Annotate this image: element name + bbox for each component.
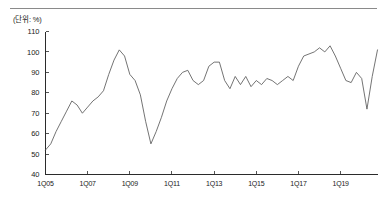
x-tick-label: 1Q09 bbox=[122, 180, 139, 188]
data-series-line bbox=[46, 46, 378, 150]
y-tick-label: 100 bbox=[27, 48, 40, 57]
y-tick-label: 110 bbox=[28, 27, 40, 36]
y-tick-label: 40 bbox=[31, 170, 39, 179]
y-tick-label: 60 bbox=[31, 129, 39, 138]
x-tick-label: 1Q13 bbox=[206, 180, 223, 188]
x-tick-label: 1Q05 bbox=[37, 180, 54, 188]
x-axis-tick-marks bbox=[46, 171, 341, 175]
x-tick-label: 1Q11 bbox=[164, 180, 180, 188]
x-axis-tick-labels: 1Q051Q071Q091Q111Q131Q151Q171Q19 bbox=[37, 180, 349, 188]
y-tick-label: 80 bbox=[31, 88, 39, 97]
chart-figure: (단위: %) 405060708090100110 1Q051Q071Q091… bbox=[0, 0, 387, 200]
x-tick-label: 1Q07 bbox=[79, 180, 96, 188]
x-tick-label: 1Q15 bbox=[248, 180, 265, 188]
y-tick-label: 70 bbox=[31, 109, 39, 118]
y-tick-label: 50 bbox=[31, 150, 39, 159]
y-tick-label: 90 bbox=[31, 68, 39, 77]
y-axis-tick-labels: 405060708090100110 bbox=[27, 27, 40, 179]
x-tick-label: 1Q19 bbox=[332, 180, 349, 188]
line-chart-plot: 405060708090100110 1Q051Q071Q091Q111Q131… bbox=[0, 0, 387, 200]
x-tick-label: 1Q17 bbox=[290, 180, 307, 188]
